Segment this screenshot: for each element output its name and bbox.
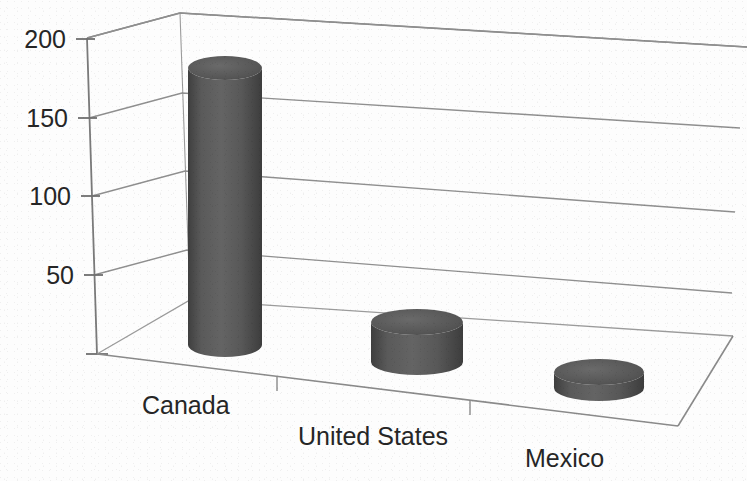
y-axis-tick-label-50: 50 (0, 263, 74, 288)
gridline-200 (87, 13, 747, 47)
y-axis-tick-label-200: 200 (0, 27, 66, 52)
x-axis-label-mexico: Mexico (525, 446, 604, 471)
bar-canada-top (188, 56, 262, 80)
bar-united-states[interactable] (371, 309, 463, 375)
y-axis-tick-label-100: 100 (0, 184, 71, 209)
bar-mexico[interactable] (554, 359, 644, 401)
bar-canada-body (188, 68, 262, 357)
x-axis-label-canada: Canada (142, 393, 230, 418)
bar-mexico-top (554, 359, 644, 385)
gridline-150 (89, 93, 740, 128)
x-axis-label-united-states: United States (298, 424, 448, 449)
chart-container: 200 150 100 50 Canada United States Mexi… (0, 0, 747, 481)
bar-canada[interactable] (188, 56, 262, 357)
y-axis-tick-label-150: 150 (0, 106, 68, 131)
cylinder-chart-3d (0, 0, 747, 481)
bar-united-states-top (371, 309, 463, 335)
floor-right-edge (678, 336, 733, 426)
